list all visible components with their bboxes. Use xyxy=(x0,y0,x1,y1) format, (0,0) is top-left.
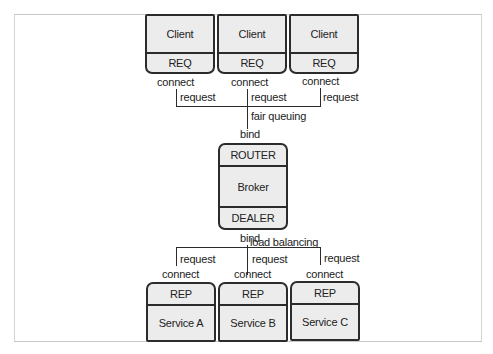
request-label: request xyxy=(324,252,359,264)
client-fan-in-bar xyxy=(176,106,321,107)
client-name: Client xyxy=(291,16,357,52)
fair-queuing-label: fair queuing xyxy=(251,110,306,122)
client-connect-label: connect xyxy=(302,75,339,87)
service-edge-3 xyxy=(320,247,321,265)
broker-box: ROUTER Broker DEALER xyxy=(218,143,288,230)
client-box-2: Client REQ xyxy=(217,14,287,74)
service-box-b: REP Service B xyxy=(218,282,288,342)
client-name: Client xyxy=(219,16,285,52)
service-socket-type: REP xyxy=(220,284,286,304)
request-label: request xyxy=(252,253,287,265)
service-connect-label: connect xyxy=(162,268,199,280)
request-label: request xyxy=(180,253,215,265)
router-socket: ROUTER xyxy=(220,145,286,165)
dealer-socket: DEALER xyxy=(220,206,286,228)
service-socket-type: REP xyxy=(148,284,214,304)
service-edge-1 xyxy=(176,247,177,266)
frontend-bind-label: bind xyxy=(240,128,260,140)
client-edge-3 xyxy=(320,88,321,107)
client-socket-type: REQ xyxy=(291,52,357,72)
service-box-c: REP Service C xyxy=(290,281,360,341)
service-name: Service A xyxy=(148,304,214,340)
client-edge-2-trunk xyxy=(247,89,248,129)
service-fan-out-bar xyxy=(176,247,321,248)
client-connect-label: connect xyxy=(231,76,268,88)
service-name: Service B xyxy=(220,304,286,340)
client-socket-type: REQ xyxy=(147,52,213,72)
client-edge-1 xyxy=(176,89,177,107)
service-socket-type: REP xyxy=(292,283,358,303)
broker-name: Broker xyxy=(220,165,286,206)
client-name: Client xyxy=(147,16,213,52)
request-label: request xyxy=(251,91,286,103)
client-connect-label: connect xyxy=(157,76,194,88)
service-name: Service C xyxy=(292,303,358,339)
request-label: request xyxy=(323,91,358,103)
request-label: request xyxy=(180,91,215,103)
client-box-1: Client REQ xyxy=(145,14,215,74)
service-connect-label: connect xyxy=(306,268,343,280)
service-box-a: REP Service A xyxy=(146,282,216,342)
service-connect-label: connect xyxy=(234,268,271,280)
client-box-3: Client REQ xyxy=(289,14,359,74)
client-socket-type: REQ xyxy=(219,52,285,72)
